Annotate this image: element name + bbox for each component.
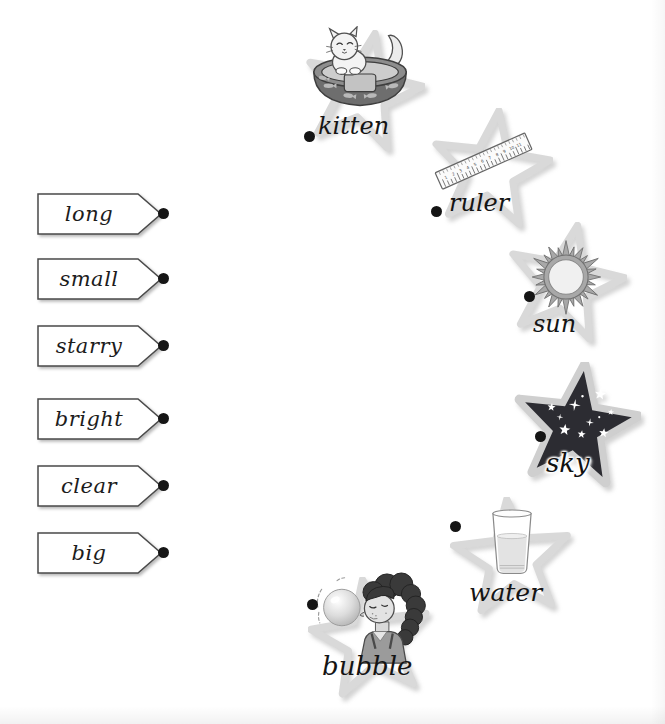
picture-label-ruler: ruler <box>449 189 509 217</box>
connector-dot-ruler[interactable] <box>431 206 442 217</box>
word-tag-label: bright <box>37 398 141 440</box>
connector-dot-long[interactable] <box>158 208 169 219</box>
word-tag-label: clear <box>37 465 141 507</box>
word-tag-label: long <box>37 193 141 235</box>
connector-dot-bright[interactable] <box>158 413 169 424</box>
picture-label-sky: sky <box>546 448 590 478</box>
glass-of-water-icon <box>486 508 538 578</box>
worksheet-page: long small starry bright clear <box>0 0 665 724</box>
sun-icon <box>527 238 605 316</box>
picture-label-bubble: bubble <box>322 651 412 681</box>
word-tag-small[interactable]: small <box>37 258 163 300</box>
word-tag-starry[interactable]: starry <box>37 325 163 367</box>
connector-dot-starry[interactable] <box>158 340 169 351</box>
word-tag-big[interactable]: big <box>37 532 163 574</box>
kitten-in-basket-icon <box>303 26 421 118</box>
connector-dot-clear[interactable] <box>158 480 169 491</box>
connector-dot-kitten[interactable] <box>304 131 315 142</box>
connector-dot-bubble[interactable] <box>307 599 318 610</box>
word-tag-label: starry <box>37 325 141 367</box>
connector-dot-sun[interactable] <box>524 291 535 302</box>
picture-label-sun: sun <box>533 310 576 338</box>
connector-dot-big[interactable] <box>158 547 169 558</box>
word-tag-clear[interactable]: clear <box>37 465 163 507</box>
picture-label-water: water <box>469 578 542 607</box>
word-tag-bright[interactable]: bright <box>37 398 163 440</box>
connector-dot-sky[interactable] <box>535 431 546 442</box>
connector-dot-water[interactable] <box>450 521 461 532</box>
word-tag-label: small <box>37 258 141 300</box>
word-tag-label: big <box>37 532 141 574</box>
word-tag-long[interactable]: long <box>37 193 163 235</box>
connector-dot-small[interactable] <box>158 273 169 284</box>
picture-label-kitten: kitten <box>318 112 389 140</box>
